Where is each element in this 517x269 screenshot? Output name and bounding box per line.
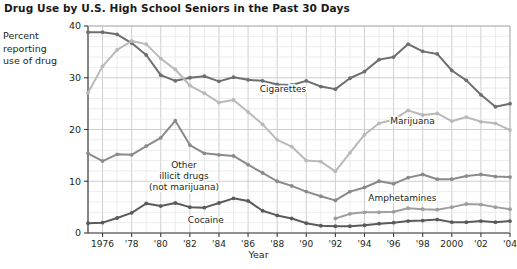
data-point [406,176,410,180]
data-point [392,55,396,59]
data-point [377,121,381,125]
x-tick-label: '90 [299,239,313,249]
x-tick-label: '80 [154,239,168,249]
data-point [130,153,134,157]
data-point [275,214,279,218]
data-point [377,222,381,226]
x-tick-label: '92 [328,239,342,249]
data-point [217,153,221,157]
data-point [464,202,468,206]
data-point [304,79,308,83]
data-point [115,48,119,52]
data-point [86,91,90,95]
data-point [275,138,279,142]
data-point [494,175,498,179]
data-point [86,151,90,155]
data-point [261,79,265,83]
data-point [479,203,483,207]
data-point [377,210,381,214]
data-point [86,30,90,34]
data-point [363,223,367,227]
data-point [508,128,512,132]
y-axis-label-line-1: Percent [3,30,75,43]
series-annotation: CigarettesCigarettes [260,84,307,94]
x-axis-label: Year [0,249,517,260]
series-annotation-label: Cocaine [188,215,224,225]
x-tick-label: '04 [503,239,517,249]
x-tick-label: '88 [270,239,284,249]
data-point [363,186,367,190]
x-axis-ticks: 1976'78'80'82'84'86'88'90'92'94'96'98200… [91,233,517,249]
data-point [450,220,454,224]
data-point [232,154,236,158]
data-point [304,159,308,163]
x-tick-label: '82 [183,239,197,249]
x-tick-label: 2000 [440,239,463,249]
data-point [246,163,250,167]
data-point [377,58,381,62]
data-point [392,221,396,225]
data-point [464,78,468,82]
data-point [101,30,105,34]
data-point [392,182,396,186]
data-point [203,91,207,95]
data-point [333,170,337,174]
x-tick-label: '98 [416,239,430,249]
data-point [144,144,148,148]
data-point [159,73,163,77]
data-point [348,224,352,228]
x-tick-label: '84 [212,239,226,249]
data-point [261,122,265,126]
data-point [203,74,207,78]
data-point [319,160,323,164]
data-point [494,121,498,125]
data-point [217,101,221,105]
data-point [246,199,250,203]
data-point [435,112,439,116]
data-point [464,115,468,119]
data-point [319,224,323,228]
data-point [421,49,425,53]
data-point [435,52,439,56]
series-annotation: MarijuanaMarijuana [390,116,434,126]
data-point [348,190,352,194]
data-point [333,224,337,228]
data-point [188,205,192,209]
data-point [173,79,177,83]
y-tick-label: 0 [75,227,81,238]
data-point [101,159,105,163]
data-point [435,208,439,212]
x-tick-label: '02 [474,239,488,249]
data-point [508,207,512,211]
data-point [130,39,134,43]
data-point [333,199,337,203]
data-point [217,201,221,205]
data-point [101,64,105,68]
data-point [333,87,337,91]
data-point [508,102,512,106]
data-point [450,69,454,73]
data-point [290,217,294,221]
data-point [494,205,498,209]
series-annotation-label: Marijuana [390,116,434,126]
data-point [377,179,381,183]
data-point [508,219,512,223]
series-annotation-label: Amphetamines [368,193,436,203]
data-point [144,202,148,206]
data-point [479,93,483,97]
data-point [159,136,163,140]
data-point [115,216,119,220]
data-point [435,218,439,222]
data-point [159,57,163,61]
data-point [246,78,250,82]
data-point [304,190,308,194]
data-point [464,174,468,178]
data-point [435,177,439,181]
data-point [101,221,105,225]
series-annotation-label: Cigarettes [260,84,307,94]
data-point [406,206,410,210]
series-annotation-label: illicit drugs [159,171,209,181]
data-point [406,108,410,112]
data-point [86,221,90,225]
data-point [203,206,207,210]
